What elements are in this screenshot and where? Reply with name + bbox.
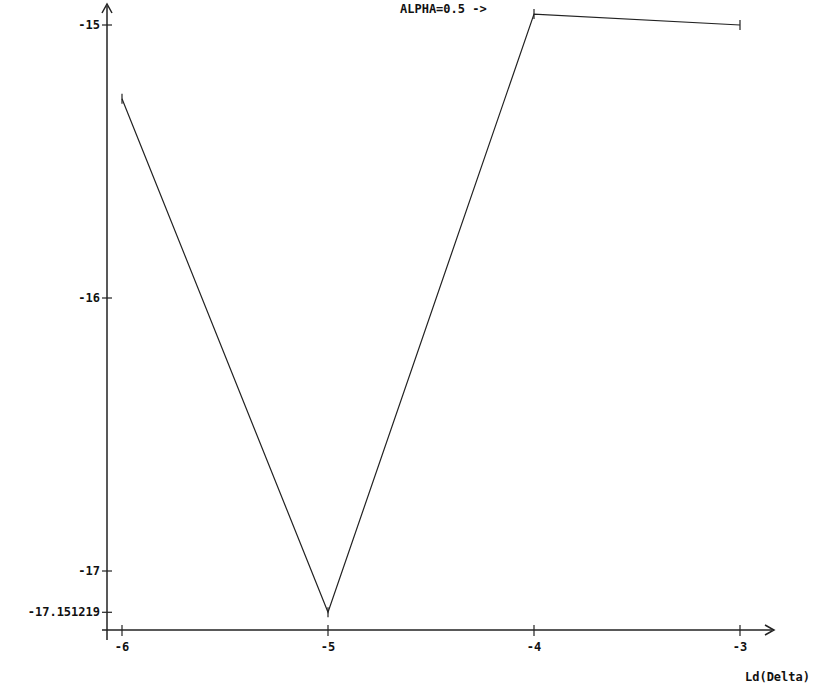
x-tick-label: -3	[733, 640, 747, 654]
x-tick-label: -4	[527, 640, 541, 654]
y-axis	[102, 4, 112, 640]
x-tick-label: -5	[321, 640, 335, 654]
chart: -15-16-17-17.151219 -6-5-4-3 ALPHA=0.5 -…	[0, 0, 817, 687]
y-tick-label: -17.151219	[28, 605, 100, 619]
y-ticks: -15-16-17-17.151219	[28, 18, 112, 619]
x-axis	[102, 625, 774, 635]
y-tick-label: -16	[78, 291, 100, 305]
y-tick-label: -17	[78, 564, 100, 578]
x-axis-label: Ld(Delta)	[745, 670, 810, 684]
series-annotation: ALPHA=0.5 ->	[400, 2, 487, 16]
x-tick-label: -6	[115, 640, 129, 654]
y-tick-label: -15	[78, 18, 100, 32]
data-line	[122, 14, 740, 612]
